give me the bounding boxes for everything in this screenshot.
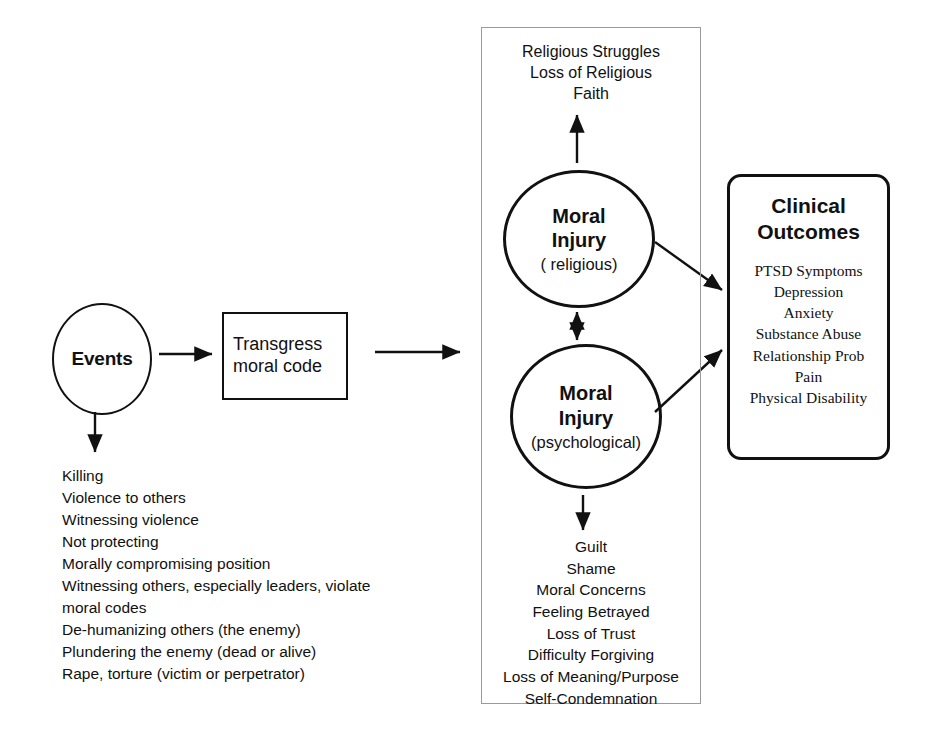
events-list-item: Killing — [62, 465, 462, 487]
moral-injury-psychological-node: Moral Injury (psychological) — [510, 344, 662, 489]
events-node: Events — [52, 303, 152, 415]
clinical-outcomes-title: Clinical Outcomes — [730, 193, 887, 244]
clinical-outcomes-item: Pain — [730, 366, 887, 387]
moral-injury-religious-title: Moral Injury — [552, 204, 606, 253]
events-list-item: Violence to others — [62, 487, 462, 509]
events-list-item: Not protecting — [62, 531, 462, 553]
moral-injury-religious-node: Moral Injury ( religious) — [503, 170, 655, 308]
psychological-outcomes-item: Difficulty Forgiving — [484, 644, 698, 666]
clinical-outcomes-item: Depression — [730, 281, 887, 302]
events-list: KillingViolence to othersWitnessing viol… — [62, 465, 462, 685]
psychological-outcomes-item: Guilt — [484, 536, 698, 558]
transgress-moral-code-node: Transgress moral code — [222, 312, 348, 400]
psychological-outcomes-item: Loss of Trust — [484, 623, 698, 645]
events-node-label: Events — [71, 348, 132, 370]
clinical-outcomes-item: Physical Disability — [730, 387, 887, 408]
clinical-outcomes-item: Anxiety — [730, 302, 887, 323]
clinical-outcomes-item: Substance Abuse — [730, 323, 887, 344]
events-list-item: Witnessing others, especially leaders, v… — [62, 575, 462, 619]
events-list-item: De-humanizing others (the enemy) — [62, 619, 462, 641]
psychological-outcomes-item: Feeling Betrayed — [484, 601, 698, 623]
transgress-moral-code-label: Transgress moral code — [233, 334, 322, 378]
psychological-outcomes-item: Loss of Meaning/Purpose — [484, 666, 698, 688]
clinical-outcomes-item: Relationship Prob — [730, 345, 887, 366]
clinical-outcomes-list: PTSD SymptomsDepressionAnxietySubstance … — [730, 260, 887, 408]
diagram-canvas: Events Transgress moral code KillingViol… — [0, 0, 925, 733]
psychological-outcomes-list: GuiltShameMoral ConcernsFeeling Betrayed… — [484, 536, 698, 710]
clinical-outcomes-item: PTSD Symptoms — [730, 260, 887, 281]
events-list-item: Plundering the enemy (dead or alive) — [62, 641, 462, 663]
psychological-outcomes-item: Shame — [484, 558, 698, 580]
religious-struggles-item: Religious Struggles — [484, 42, 698, 63]
clinical-outcomes-node: Clinical Outcomes PTSD SymptomsDepressio… — [727, 174, 890, 460]
religious-struggles-list: Religious StrugglesLoss of ReligiousFait… — [484, 42, 698, 104]
psychological-outcomes-item: Self-Condemnation — [484, 688, 698, 710]
events-list-item: Witnessing violence — [62, 509, 462, 531]
moral-injury-psychological-title: Moral Injury — [559, 381, 613, 430]
religious-struggles-item: Loss of Religious — [484, 63, 698, 84]
religious-struggles-item: Faith — [484, 84, 698, 105]
events-list-item: Rape, torture (victim or perpetrator) — [62, 663, 462, 685]
psychological-outcomes-item: Moral Concerns — [484, 579, 698, 601]
moral-injury-religious-subtitle: ( religious) — [540, 255, 617, 274]
moral-injury-psychological-subtitle: (psychological) — [531, 433, 641, 452]
events-list-item: Morally compromising position — [62, 553, 462, 575]
